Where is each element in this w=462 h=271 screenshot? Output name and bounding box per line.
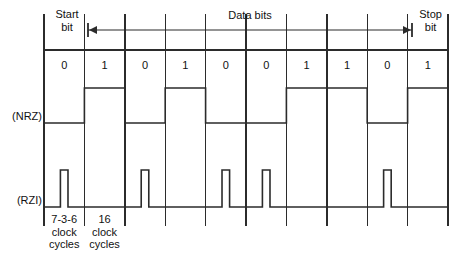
bit-value-8: 0 (367, 59, 407, 72)
data-bits-arrow (88, 23, 412, 37)
bit-value-5: 0 (246, 59, 286, 72)
data-bits-label: Data bits (190, 9, 310, 22)
bit-value-3: 1 (165, 59, 205, 72)
rzi-signal-label: (RZI) (0, 194, 42, 207)
start-bit-clock-cycles-label: 7-3-6clockcycles (42, 213, 86, 251)
bit-value-4: 0 (206, 59, 246, 72)
start-bit-label: Startbit (45, 8, 89, 33)
bit-value-7: 1 (327, 59, 367, 72)
nrz-signal-label: (NRZ) (0, 110, 42, 123)
timing-diagram-figure: 0101001101 Startbit Stopbit Data bits (N… (0, 0, 462, 271)
data-bit-clock-cycles-label: 16clockcycles (83, 213, 127, 251)
stop-bit-label: Stopbit (409, 8, 453, 33)
bit-value-2: 0 (125, 59, 165, 72)
bit-value-6: 1 (287, 59, 327, 72)
bit-value-0: 0 (44, 59, 84, 72)
bit-value-1: 1 (85, 59, 125, 72)
grid-lines (44, 14, 448, 226)
bit-value-9: 1 (408, 59, 448, 72)
